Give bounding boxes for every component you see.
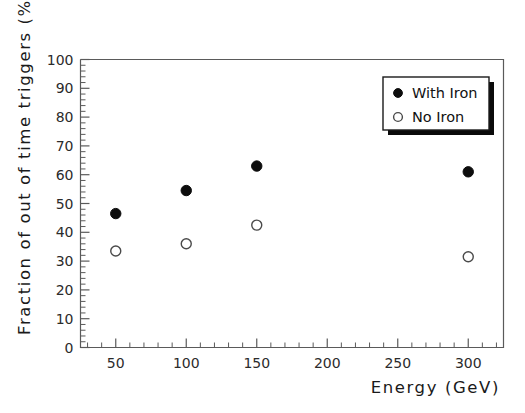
data-point-no-iron [252,220,262,230]
data-point-with-iron [111,208,121,218]
data-point-with-iron [181,185,191,195]
y-tick-label: 40 [56,224,74,240]
x-tick-label: 300 [455,355,482,371]
x-tick-label: 100 [173,355,200,371]
data-point-no-iron [181,239,191,249]
legend-label-with-iron: With Iron [412,85,478,101]
data-point-with-iron [252,161,262,171]
legend-label-no-iron: No Iron [412,109,464,125]
chart-page: 0102030405060708090100 50100150200250300… [0,0,525,413]
y-tick-label: 70 [56,138,74,154]
y-axis-ticks [81,60,90,348]
y-tick-label: 60 [56,167,74,183]
x-tick-label: 250 [384,355,411,371]
y-tick-label: 20 [56,282,74,298]
y-axis-tick-labels: 0102030405060708090100 [47,52,74,356]
scatter-chart: 0102030405060708090100 50100150200250300… [0,0,525,413]
legend-marker-no-iron [394,113,403,122]
y-tick-label: 30 [56,253,74,269]
data-point-with-iron [463,167,473,177]
y-tick-label: 100 [47,52,74,68]
y-tick-label: 80 [56,109,74,125]
data-point-no-iron [111,246,121,256]
x-axis-title: Energy (GeV) [371,378,500,397]
x-tick-label: 150 [243,355,270,371]
x-axis-ticks [88,339,497,348]
y-tick-label: 50 [56,196,74,212]
y-tick-label: 0 [65,340,74,356]
series-with-iron [111,161,474,219]
x-axis-tick-labels: 50100150200250300 [107,355,482,371]
x-tick-label: 200 [314,355,341,371]
y-tick-label: 90 [56,80,74,96]
series-no-iron [111,220,474,262]
legend-marker-with-iron [394,89,403,98]
y-tick-label: 10 [56,311,74,327]
x-tick-label: 50 [107,355,125,371]
legend: With Iron No Iron [383,77,494,135]
y-axis-title: Fraction of out of time triggers (%) [15,0,34,335]
data-point-no-iron [463,252,473,262]
